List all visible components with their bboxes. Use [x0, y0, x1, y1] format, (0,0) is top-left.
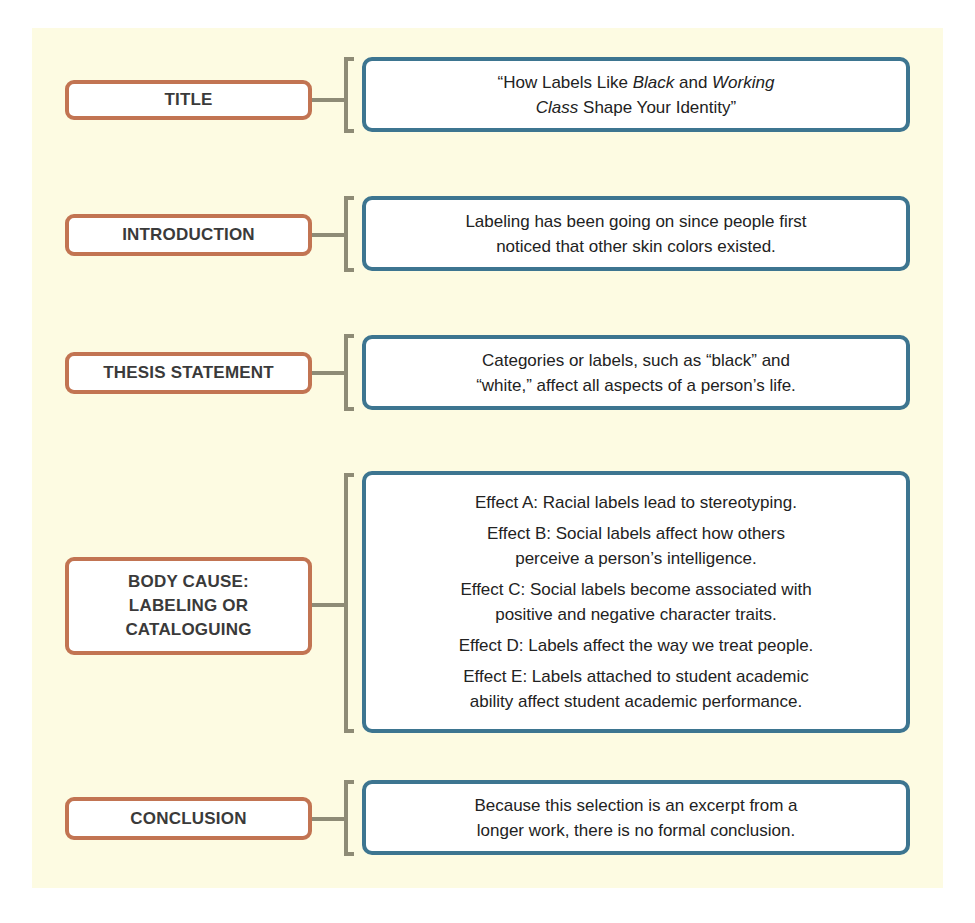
label-introduction: INTRODUCTION	[65, 214, 312, 256]
conclusion-text: Because this selection is an excerpt fro…	[444, 793, 827, 843]
bracket-introduction	[344, 196, 354, 272]
connector-body	[312, 603, 346, 607]
bracket-thesis	[344, 334, 354, 411]
connector-conclusion	[312, 817, 346, 821]
effect-e: Effect E: Labels attached to student aca…	[433, 664, 839, 714]
bracket-title	[344, 57, 354, 133]
connector-introduction	[312, 233, 346, 237]
content-title: “How Labels Like Black and Working Class…	[362, 57, 910, 132]
effect-c: Effect C: Social labels become associate…	[430, 577, 841, 627]
introduction-text: Labeling has been going on since people …	[435, 209, 836, 259]
label-body-cause: BODY CAUSE: LABELING OR CATALOGUING	[65, 557, 312, 655]
content-conclusion: Because this selection is an excerpt fro…	[362, 780, 910, 855]
effect-b: Effect B: Social labels affect how other…	[457, 521, 815, 571]
label-title: TITLE	[65, 80, 312, 120]
effect-a: Effect A: Racial labels lead to stereoty…	[445, 490, 827, 515]
connector-thesis	[312, 371, 346, 375]
bracket-conclusion	[344, 780, 354, 856]
bracket-body	[344, 473, 354, 733]
effect-d: Effect D: Labels affect the way we treat…	[429, 633, 844, 658]
label-conclusion: CONCLUSION	[65, 797, 312, 840]
title-text: “How Labels Like Black and Working Class…	[468, 70, 805, 120]
content-body-effects: Effect A: Racial labels lead to stereoty…	[362, 471, 910, 733]
thesis-text: Categories or labels, such as “black” an…	[446, 348, 826, 398]
label-thesis-statement: THESIS STATEMENT	[65, 352, 312, 394]
content-introduction: Labeling has been going on since people …	[362, 196, 910, 271]
diagram-panel	[32, 28, 943, 888]
connector-title	[312, 98, 346, 102]
content-thesis: Categories or labels, such as “black” an…	[362, 335, 910, 410]
